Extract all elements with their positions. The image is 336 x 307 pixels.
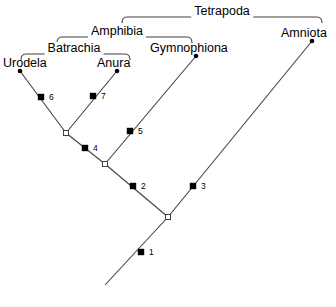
marker-number-6: 6 <box>49 93 54 102</box>
marker-1 <box>138 249 144 255</box>
clade-label-amphibia: Amphibia <box>88 25 146 38</box>
marker-5 <box>127 128 133 134</box>
node-batrachia <box>64 131 69 136</box>
branch-anura <box>66 71 117 133</box>
taxon-label-urodela: Urodela <box>3 57 47 70</box>
branch-root <box>105 217 168 285</box>
taxon-label-anura: Anura <box>97 57 130 70</box>
marker-7 <box>90 93 96 99</box>
marker-2 <box>130 183 136 189</box>
marker-number-2: 2 <box>141 182 146 191</box>
marker-number-5: 5 <box>138 127 143 136</box>
marker-4 <box>82 145 88 151</box>
branches-group <box>20 41 312 285</box>
marker-6 <box>38 94 44 100</box>
node-tetrapoda <box>166 215 171 220</box>
marker-number-1: 1 <box>149 248 154 257</box>
marker-number-4: 4 <box>93 144 98 153</box>
marker-number-3: 3 <box>201 182 206 191</box>
clade-label-batrachia: Batrachia <box>45 42 104 55</box>
branch-urodela <box>20 71 66 133</box>
marker-3 <box>190 183 196 189</box>
clade-label-tetrapoda: Tetrapoda <box>191 5 253 18</box>
branch-amphibia <box>105 164 168 217</box>
node-amphibia <box>103 162 108 167</box>
taxon-label-amniota: Amniota <box>281 27 327 40</box>
branch-amniota <box>168 41 312 217</box>
taxon-label-gymnophiona: Gymnophiona <box>150 42 228 55</box>
marker-number-7: 7 <box>101 92 106 101</box>
cladogram-diagram: UrodelaAnuraGymnophionaAmniotaTetrapodaA… <box>0 0 336 307</box>
